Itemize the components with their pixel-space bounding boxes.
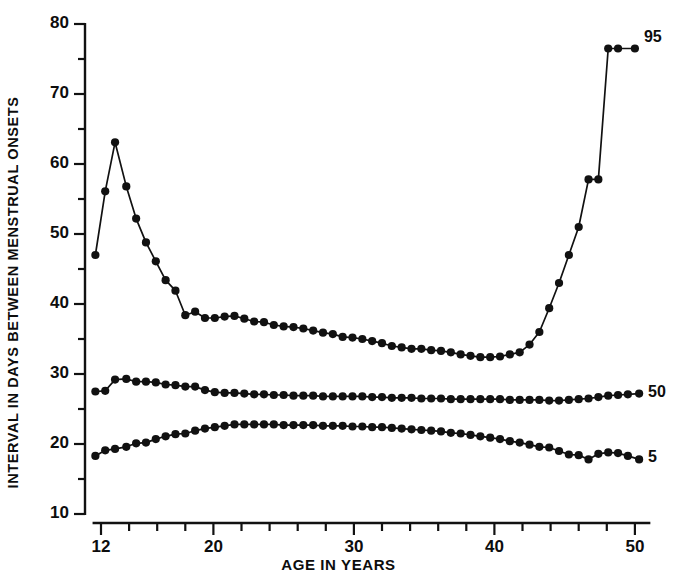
- x-tick-label-30: 30: [332, 537, 376, 557]
- y-tick-label-70: 70: [19, 83, 69, 103]
- data-point: [101, 387, 109, 395]
- data-point: [289, 421, 297, 429]
- data-point: [378, 393, 386, 401]
- data-point: [171, 430, 179, 438]
- data-point: [594, 393, 602, 401]
- data-point: [309, 327, 317, 335]
- data-point: [437, 427, 445, 435]
- data-point: [525, 341, 533, 349]
- data-point: [191, 427, 199, 435]
- data-point: [348, 392, 356, 400]
- data-point: [516, 396, 524, 404]
- data-point: [339, 392, 347, 400]
- data-point: [476, 432, 484, 440]
- data-point: [368, 393, 376, 401]
- data-point: [565, 251, 573, 259]
- data-point: [142, 439, 150, 447]
- data-point: [280, 391, 288, 399]
- data-point: [309, 421, 317, 429]
- chart-series-layer: [91, 44, 643, 463]
- data-point: [348, 422, 356, 430]
- data-point: [457, 395, 465, 403]
- data-point: [555, 447, 563, 455]
- data-point: [122, 182, 130, 190]
- data-point: [152, 378, 160, 386]
- data-point: [516, 348, 524, 356]
- data-point: [388, 424, 396, 432]
- data-point: [407, 345, 415, 353]
- data-point: [152, 435, 160, 443]
- data-point: [221, 422, 229, 430]
- data-point: [211, 314, 219, 322]
- data-point: [407, 394, 415, 402]
- data-point: [280, 421, 288, 429]
- data-point: [221, 313, 229, 321]
- data-point: [535, 396, 543, 404]
- data-point: [111, 138, 119, 146]
- data-point: [329, 392, 337, 400]
- data-point: [250, 420, 258, 428]
- y-tick-label-60: 60: [19, 153, 69, 173]
- data-point: [565, 396, 573, 404]
- data-point: [604, 392, 612, 400]
- data-point: [496, 435, 504, 443]
- data-point: [211, 423, 219, 431]
- data-point: [417, 394, 425, 402]
- data-point: [201, 386, 209, 394]
- data-point: [162, 380, 170, 388]
- data-point: [614, 44, 622, 52]
- data-point: [525, 441, 533, 449]
- data-point: [240, 390, 248, 398]
- data-point: [417, 345, 425, 353]
- data-point: [260, 420, 268, 428]
- data-point: [270, 321, 278, 329]
- chart-plot-area: [0, 0, 677, 585]
- data-point: [101, 187, 109, 195]
- data-point: [319, 329, 327, 337]
- data-point: [457, 429, 465, 437]
- data-point: [604, 44, 612, 52]
- data-point: [594, 450, 602, 458]
- data-point: [289, 323, 297, 331]
- data-point: [635, 455, 643, 463]
- data-point: [624, 390, 632, 398]
- data-point: [575, 223, 583, 231]
- chart-axes: [74, 23, 650, 535]
- x-axis-title: AGE IN YEARS: [0, 556, 677, 573]
- data-point: [555, 279, 563, 287]
- y-tick-label-30: 30: [19, 363, 69, 383]
- data-point: [496, 352, 504, 360]
- data-point: [171, 287, 179, 295]
- data-point: [142, 238, 150, 246]
- data-point: [417, 426, 425, 434]
- data-point: [398, 394, 406, 402]
- series-5: [91, 420, 643, 463]
- data-point: [319, 422, 327, 430]
- data-point: [635, 390, 643, 398]
- data-point: [329, 422, 337, 430]
- data-point: [378, 339, 386, 347]
- data-point: [614, 391, 622, 399]
- data-point: [447, 429, 455, 437]
- data-point: [624, 452, 632, 460]
- data-point: [358, 422, 366, 430]
- data-point: [545, 304, 553, 312]
- data-point: [388, 342, 396, 350]
- data-point: [309, 392, 317, 400]
- data-point: [398, 343, 406, 351]
- data-point: [162, 432, 170, 440]
- series-line-95: [95, 49, 635, 358]
- data-point: [260, 318, 268, 326]
- data-point: [476, 353, 484, 361]
- data-point: [240, 420, 248, 428]
- x-tick-label-50: 50: [613, 537, 657, 557]
- data-point: [181, 429, 189, 437]
- y-tick-label-10: 10: [19, 503, 69, 523]
- series-label-95: 95: [644, 28, 662, 46]
- data-point: [339, 333, 347, 341]
- data-point: [230, 389, 238, 397]
- data-point: [584, 175, 592, 183]
- data-point: [162, 276, 170, 284]
- data-point: [201, 314, 209, 322]
- data-point: [132, 378, 140, 386]
